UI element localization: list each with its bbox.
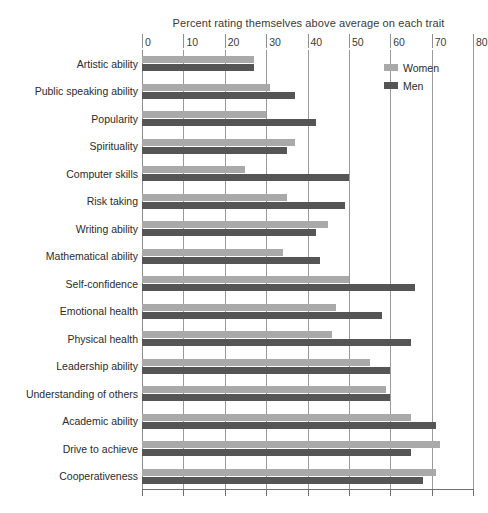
- bar-men-9: [142, 312, 382, 319]
- x-axis-tick-80: [473, 490, 474, 496]
- bar-men-0: [142, 64, 254, 71]
- bar-women-1: [142, 84, 270, 91]
- x-axis-tick-40: [308, 490, 309, 496]
- legend-swatch-men: [384, 82, 398, 89]
- x-axis-tick-30: [266, 490, 267, 496]
- legend-label-men: Men: [403, 80, 423, 92]
- bar-women-10: [142, 331, 332, 338]
- y-axis-label-9: Emotional health: [6, 305, 142, 317]
- bar-men-14: [142, 449, 411, 456]
- y-axis-label-1: Public speaking ability: [6, 85, 142, 97]
- y-axis-label-2: Popularity: [6, 113, 142, 125]
- y-axis-label-7: Mathematical ability: [6, 250, 142, 262]
- legend-item-men: Men: [384, 78, 439, 93]
- x-tick-label-20: 20: [228, 36, 240, 48]
- bar-women-14: [142, 441, 440, 448]
- bar-women-7: [142, 249, 283, 256]
- y-axis-label-11: Leadership ability: [6, 360, 142, 372]
- legend-item-women: Women: [384, 60, 439, 75]
- x-tick-label-30: 30: [269, 36, 281, 48]
- x-tick-label-80: 80: [476, 36, 488, 48]
- bar-men-11: [142, 367, 390, 374]
- x-tick-label-60: 60: [393, 36, 405, 48]
- bar-men-3: [142, 147, 287, 154]
- y-axis-category-labels: Artistic abilityPublic speaking abilityP…: [0, 50, 142, 490]
- bar-men-2: [142, 119, 316, 126]
- bar-women-6: [142, 221, 328, 228]
- right-frame-line: [473, 44, 474, 490]
- y-axis-label-13: Academic ability: [6, 415, 142, 427]
- legend-swatch-women: [384, 64, 398, 71]
- bar-women-11: [142, 359, 370, 366]
- y-axis-label-5: Risk taking: [6, 195, 142, 207]
- bar-women-13: [142, 414, 411, 421]
- y-axis-label-8: Self-confidence: [6, 278, 142, 290]
- y-axis-label-3: Spirituality: [6, 140, 142, 152]
- bar-men-12: [142, 394, 390, 401]
- bar-women-12: [142, 386, 386, 393]
- x-tick-label-70: 70: [435, 36, 447, 48]
- bar-men-13: [142, 422, 436, 429]
- bar-women-3: [142, 139, 295, 146]
- bar-men-15: [142, 477, 423, 484]
- bar-men-4: [142, 174, 349, 181]
- x-axis-tick-70: [432, 490, 433, 496]
- x-tick-mark-60: [390, 34, 391, 48]
- chart-title: Percent rating themselves above average …: [142, 17, 475, 29]
- x-tick-mark-50: [349, 34, 350, 48]
- y-axis-label-4: Computer skills: [6, 168, 142, 180]
- y-axis-label-6: Writing ability: [6, 223, 142, 235]
- x-axis-tick-20: [225, 490, 226, 496]
- x-axis-tick-50: [349, 490, 350, 496]
- x-axis-tick-60: [390, 490, 391, 496]
- x-tick-label-50: 50: [352, 36, 364, 48]
- x-axis-tick-10: [183, 490, 184, 496]
- y-axis-label-14: Drive to achieve: [6, 443, 142, 455]
- bar-men-10: [142, 339, 411, 346]
- x-tick-mark-10: [183, 34, 184, 48]
- bar-women-9: [142, 304, 336, 311]
- bar-women-8: [142, 276, 349, 283]
- bar-women-2: [142, 111, 266, 118]
- x-tick-mark-40: [308, 34, 309, 48]
- y-axis-label-10: Physical health: [6, 333, 142, 345]
- x-tick-mark-70: [432, 34, 433, 48]
- bar-men-7: [142, 257, 320, 264]
- bar-women-15: [142, 469, 436, 476]
- x-tick-mark-30: [266, 34, 267, 48]
- legend: WomenMen: [384, 60, 439, 96]
- bar-women-0: [142, 56, 254, 63]
- bar-men-1: [142, 92, 295, 99]
- bar-men-8: [142, 284, 415, 291]
- x-tick-label-10: 10: [186, 36, 198, 48]
- plot-area: [142, 50, 473, 490]
- bar-women-4: [142, 166, 245, 173]
- x-tick-label-40: 40: [311, 36, 323, 48]
- y-axis-label-0: Artistic ability: [6, 58, 142, 70]
- bar-men-5: [142, 202, 345, 209]
- y-axis-label-12: Understanding of others: [6, 388, 142, 400]
- x-tick-mark-20: [225, 34, 226, 48]
- bar-women-5: [142, 194, 287, 201]
- y-axis-label-15: Cooperativeness: [6, 470, 142, 482]
- legend-label-women: Women: [403, 62, 439, 74]
- bar-men-6: [142, 229, 316, 236]
- x-tick-label-0: 0: [145, 36, 151, 48]
- x-tick-mark-0: [142, 34, 143, 48]
- x-axis-tick-0: [142, 490, 143, 496]
